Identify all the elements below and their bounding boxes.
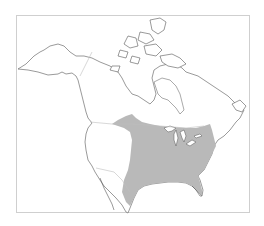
north-america-map [0, 0, 264, 226]
arctic-islands [110, 18, 186, 72]
